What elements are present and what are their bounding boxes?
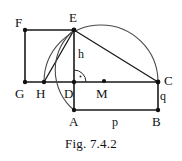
- vertex-label-M: M: [96, 87, 108, 100]
- vertex-dot-F: [23, 28, 27, 32]
- figure-caption: Fig. 7.4.2: [0, 136, 182, 152]
- vertex-label-E: E: [69, 11, 77, 24]
- geometry-figure: F E G H D M C A B h q p Fig. 7.4.2: [0, 0, 182, 161]
- right-angle-dot-at-D: [80, 76, 82, 78]
- vertex-dot-M: [102, 79, 106, 83]
- vertex-dot-H: [42, 80, 46, 84]
- vertex-label-C: C: [164, 74, 173, 87]
- segment-label-q: q: [160, 90, 166, 102]
- vertex-dot-B: [156, 108, 160, 112]
- vertex-label-F: F: [15, 16, 22, 29]
- vertex-label-D: D: [64, 87, 73, 100]
- segment-label-p: p: [112, 116, 118, 128]
- vertex-dot-C: [156, 80, 161, 85]
- vertex-dot-D: [72, 80, 76, 84]
- segment-EC: [74, 30, 158, 82]
- segment-EH: [44, 30, 74, 82]
- vertex-label-B: B: [152, 115, 161, 128]
- vertex-dot-E: [72, 28, 77, 33]
- segment-label-h: h: [78, 48, 84, 60]
- vertex-dot-G: [23, 80, 27, 84]
- vertex-dot-A: [72, 108, 76, 112]
- vertex-label-A: A: [69, 115, 78, 128]
- vertex-label-G: G: [15, 87, 24, 100]
- vertex-label-H: H: [36, 87, 45, 100]
